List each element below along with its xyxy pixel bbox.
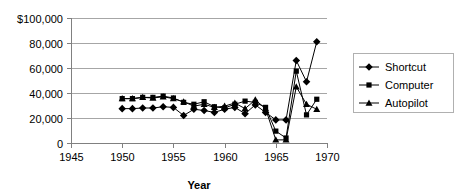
y-tick-label: 40,000 [29, 88, 63, 100]
data-series-group [118, 38, 320, 143]
data-point-square [242, 99, 247, 104]
chart-container: $100,00080,00060,00040,00020,0000 194519… [0, 0, 464, 196]
data-point-diamond [272, 116, 280, 124]
y-tick-label: 60,000 [29, 63, 63, 75]
data-point-diamond [118, 105, 126, 113]
series-line [122, 71, 317, 138]
data-point-triangle [252, 96, 259, 102]
y-tick-label: $100,000 [17, 13, 63, 25]
data-point-square [294, 69, 299, 74]
x-tick-label: 1965 [264, 151, 288, 163]
x-tick-label: 1955 [161, 151, 185, 163]
y-tick-label: 20,000 [29, 113, 63, 125]
data-point-diamond [159, 103, 167, 111]
data-point-square [304, 112, 309, 117]
x-tick-label: 1945 [59, 151, 83, 163]
data-point-square [314, 97, 319, 102]
series-computer [120, 69, 320, 141]
data-point-diamond [149, 104, 157, 112]
legend-item-label: Computer [385, 79, 434, 91]
data-point-diamond [200, 107, 208, 115]
data-point-diamond [129, 105, 137, 113]
line-chart: $100,00080,00060,00040,00020,0000 194519… [0, 0, 464, 196]
y-tick-labels: $100,00080,00060,00040,00020,0000 [17, 13, 71, 150]
x-tick-label: 1970 [315, 151, 339, 163]
legend-item-label: Autopilot [385, 97, 428, 109]
y-tick-label: 80,000 [29, 38, 63, 50]
data-point-diamond [139, 104, 147, 112]
data-point-diamond [293, 57, 301, 65]
x-tick-label: 1950 [110, 151, 134, 163]
x-axis-title: Year [187, 179, 211, 191]
data-point-triangle [313, 106, 320, 112]
data-point-diamond [313, 38, 321, 46]
data-point-diamond [303, 78, 311, 86]
data-point-square [366, 82, 371, 87]
y-tick-label: 0 [57, 138, 63, 150]
x-tick-labels: 194519501955196019651970 [59, 143, 339, 163]
legend: ShortcutComputerAutopilot [354, 54, 454, 113]
x-tick-label: 1960 [213, 151, 237, 163]
legend-item-label: Shortcut [385, 61, 426, 73]
